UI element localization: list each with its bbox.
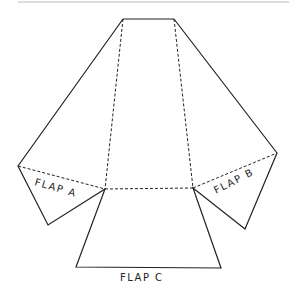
- fold-lines: [18, 19, 277, 189]
- cut-lines: [18, 19, 277, 268]
- folding-net-diagram: FLAP A FLAP B FLAP C: [0, 0, 289, 290]
- flap-c-label: FLAP C: [120, 272, 164, 283]
- flap-b-label: FLAP B: [212, 166, 256, 196]
